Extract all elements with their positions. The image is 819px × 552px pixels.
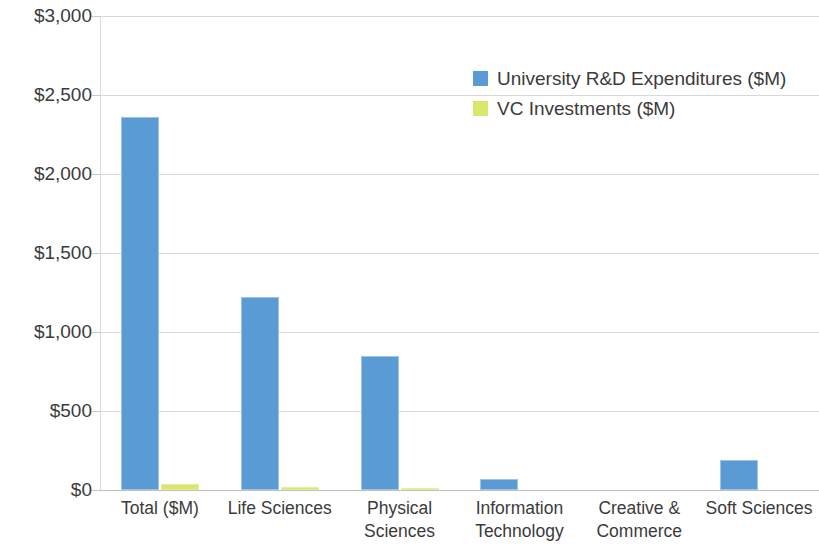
y-tick-label-2500: $2,500	[0, 85, 92, 104]
legend-entry-university-rd[interactable]: University R&D Expenditures ($M)	[473, 63, 819, 93]
bar	[401, 488, 439, 490]
x-tick-label: Life Sciences	[220, 497, 340, 520]
y-tick-label-2000: $2,000	[0, 164, 92, 183]
x-tick-label-line: Life Sciences	[220, 497, 340, 520]
y-tick-label-1000: $1,000	[0, 322, 92, 341]
x-tick-label-line: Technology	[460, 520, 580, 543]
legend-label-university-rd: University R&D Expenditures ($M)	[497, 68, 786, 89]
x-tick-label: InformationTechnology	[460, 497, 580, 543]
y-tick-label-3000: $3,000	[0, 6, 92, 25]
bar-chart: $0$500$1,000$1,500$2,000$2,500$3,000 Tot…	[0, 0, 819, 552]
y-tick-label-0: $0	[0, 480, 92, 499]
legend-entry-vc-investments[interactable]: VC Investments ($M)	[473, 93, 819, 123]
legend-swatch-icon-green	[473, 101, 488, 116]
bar	[361, 356, 399, 490]
x-tick-label-line: Commerce	[579, 520, 699, 543]
x-tick-label-line: Sciences	[340, 520, 460, 543]
bar-group	[220, 16, 340, 490]
x-tick-label-line: Physical	[340, 497, 460, 520]
bar-group	[340, 16, 460, 490]
y-axis-labels: $0$500$1,000$1,500$2,000$2,500$3,000	[0, 0, 92, 552]
x-tick-label-line: Information	[460, 497, 580, 520]
bar	[161, 484, 199, 490]
y-tick-mark-500	[92, 411, 100, 412]
x-tick-label: PhysicalSciences	[340, 497, 460, 543]
y-tick-mark-1000	[92, 332, 100, 333]
legend-label-vc-investments: VC Investments ($M)	[497, 98, 675, 119]
x-tick-label: Creative &Commerce	[579, 497, 699, 543]
x-tick-label-line: Total ($M)	[100, 497, 220, 520]
y-tick-label-500: $500	[0, 401, 92, 420]
bar	[241, 297, 279, 490]
bar	[281, 487, 319, 490]
x-axis-labels: Total ($M)Life SciencesPhysicalSciencesI…	[100, 497, 819, 552]
bar	[480, 479, 518, 490]
y-tick-label-1500: $1,500	[0, 243, 92, 262]
y-tick-mark-2000	[92, 174, 100, 175]
x-tick-label: Soft Sciences	[699, 497, 819, 520]
chart-legend: University R&D Expenditures ($M) VC Inve…	[473, 63, 819, 123]
y-tick-mark-0	[92, 490, 100, 491]
y-tick-mark-3000	[92, 16, 100, 17]
x-tick-label: Total ($M)	[100, 497, 220, 520]
x-tick-label-line: Soft Sciences	[699, 497, 819, 520]
gridline-0	[100, 490, 819, 491]
legend-swatch-icon-blue	[473, 71, 488, 86]
x-tick-label-line: Creative &	[579, 497, 699, 520]
y-tick-mark-2500	[92, 95, 100, 96]
y-tick-mark-1500	[92, 253, 100, 254]
bar	[720, 460, 758, 490]
bar-group	[100, 16, 220, 490]
bar	[121, 117, 159, 490]
